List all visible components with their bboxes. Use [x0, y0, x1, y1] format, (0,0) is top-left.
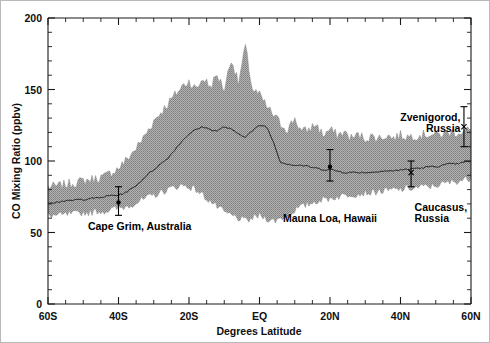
y-tick-label-200: 200 [24, 12, 42, 24]
x-tick-label-40N: 40N [391, 310, 410, 322]
x-tick-label-60S: 60S [39, 310, 58, 322]
x-tick-label-20N: 20N [320, 310, 339, 322]
annotation-label-cape-grim: Cape Grim, Australia [88, 220, 192, 232]
x-tick-label-60N: 60N [461, 310, 480, 322]
uncertainty-band [48, 44, 471, 223]
marker-cape-grim [116, 200, 120, 204]
annotation-label-mauna-loa: Mauna Loa, Hawaii [283, 212, 377, 224]
y-tick-label-150: 150 [24, 84, 42, 96]
y-axis-title: CO Mixing Ratio (ppbv) [10, 103, 22, 219]
marker-mauna-loa [328, 165, 332, 169]
x-axis-title: Degrees Latitude [216, 325, 301, 337]
figure-container: 050100150200 60S40S20SEQ20N40N60N Cape G… [0, 0, 490, 343]
co-latitude-chart: 050100150200 60S40S20SEQ20N40N60N Cape G… [1, 1, 490, 343]
x-tick-label-40S: 40S [109, 310, 128, 322]
y-tick-label-50: 50 [30, 227, 42, 239]
y-tick-label-0: 0 [36, 298, 42, 310]
x-tick-label-20S: 20S [180, 310, 199, 322]
y-tick-label-100: 100 [24, 155, 42, 167]
plot-band-group [48, 44, 471, 223]
annotation-label-zvenigorod-russia: Russia [426, 122, 461, 134]
annotation-label-caucasus-russia: Russia [415, 212, 450, 224]
x-tick-label-EQ: EQ [252, 310, 267, 322]
